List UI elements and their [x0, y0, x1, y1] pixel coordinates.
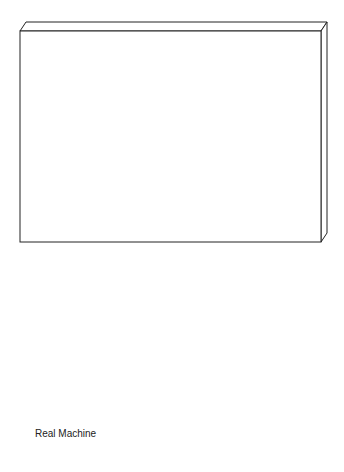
real-machine-label: Real Machine: [35, 428, 97, 439]
deployment-diagram: Real Machine: [0, 0, 344, 472]
real-machine-node: Real Machine: [20, 22, 327, 439]
